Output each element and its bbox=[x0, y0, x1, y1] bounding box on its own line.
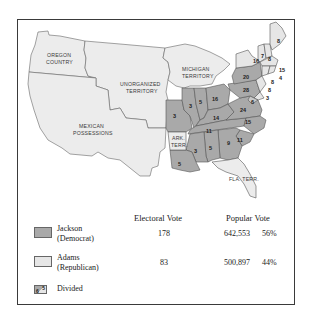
label-fla: FLA. TERR. bbox=[229, 176, 259, 182]
label-oregon-2: COUNTRY bbox=[46, 59, 73, 65]
label-unorganized-2: TERRITORY bbox=[126, 88, 158, 94]
svg-text:6: 6 bbox=[251, 99, 254, 105]
svg-text:20: 20 bbox=[243, 74, 249, 80]
svg-text:11: 11 bbox=[237, 137, 243, 143]
svg-text:8: 8 bbox=[268, 87, 271, 93]
svg-text:15: 15 bbox=[279, 67, 285, 73]
svg-text:24: 24 bbox=[240, 107, 247, 113]
svg-text:16: 16 bbox=[212, 96, 218, 102]
svg-text:5: 5 bbox=[199, 99, 202, 105]
svg-text:3: 3 bbox=[266, 95, 269, 101]
svg-text:3: 3 bbox=[173, 113, 176, 119]
label-unorganized-1: UNORGANIZED bbox=[120, 81, 161, 87]
svg-text:5: 5 bbox=[178, 161, 181, 167]
election-map: OREGON COUNTRY UNORGANIZED TERRITORY MEX… bbox=[0, 0, 309, 322]
svg-text:16: 16 bbox=[253, 58, 259, 64]
svg-text:28: 28 bbox=[243, 87, 249, 93]
label-mexican-1: MEXICAN bbox=[79, 123, 104, 129]
svg-text:15: 15 bbox=[245, 119, 251, 125]
svg-text:3: 3 bbox=[194, 148, 197, 154]
label-ark-1: ARK. bbox=[172, 135, 185, 141]
svg-text:4: 4 bbox=[279, 75, 283, 81]
label-oregon-1: OREGON bbox=[47, 52, 71, 58]
label-ark-2: TERR. bbox=[171, 142, 188, 148]
svg-text:11: 11 bbox=[206, 128, 212, 134]
svg-text:9: 9 bbox=[227, 140, 230, 146]
svg-text:8: 8 bbox=[268, 56, 271, 62]
svg-text:5: 5 bbox=[209, 145, 212, 151]
state-maine bbox=[270, 22, 286, 50]
label-michigan-2: TERRITORY bbox=[182, 73, 214, 79]
svg-text:7: 7 bbox=[261, 53, 264, 59]
svg-text:3: 3 bbox=[189, 103, 192, 109]
svg-text:14: 14 bbox=[213, 115, 220, 121]
label-mexican-2: POSSESSIONS bbox=[73, 130, 113, 136]
svg-text:8: 8 bbox=[277, 38, 280, 44]
svg-text:8: 8 bbox=[271, 79, 274, 85]
label-michigan-1: MICHIGAN bbox=[182, 66, 210, 72]
